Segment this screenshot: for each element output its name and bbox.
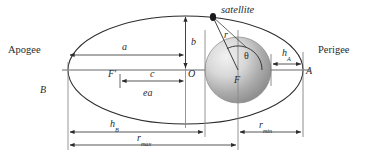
focal-distance-label: c — [150, 69, 154, 79]
altitude-apogee-subscript: B — [115, 126, 119, 133]
rmax-subscript: max — [141, 140, 151, 147]
semi-minor-axis-label: b — [191, 37, 196, 47]
rmax-label: rmax — [137, 133, 151, 145]
orbit-diagram: Apogee Perigee satellite a b c ea r θ F … — [0, 0, 365, 159]
altitude-apogee-label: hB — [110, 119, 119, 131]
apogee-label: Apogee — [8, 45, 41, 56]
focus-secondary-label: F' — [108, 69, 116, 79]
satellite-marker — [210, 13, 216, 21]
true-anomaly-label: θ — [244, 51, 249, 61]
semi-major-axis-label: a — [122, 42, 127, 52]
center-label: O — [188, 69, 195, 79]
apogee-point-label: B — [40, 85, 46, 95]
altitude-perigee-label: hA — [282, 48, 291, 60]
rmin-subscript: min — [263, 127, 272, 134]
perigee-label: Perigee — [318, 45, 350, 56]
satellite-label: satellite — [221, 5, 254, 16]
focus-primary-label: F — [234, 75, 240, 85]
orbit-diagram-svg — [0, 0, 365, 159]
radius-label: r — [224, 30, 228, 40]
altitude-perigee-subscript: A — [287, 55, 291, 62]
perigee-point-label: A — [306, 66, 312, 76]
rmin-label: rmin — [259, 120, 272, 132]
ea-label: ea — [143, 88, 152, 98]
